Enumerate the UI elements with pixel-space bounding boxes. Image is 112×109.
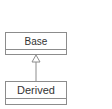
class-name: Derived [6,82,66,99]
class-box-derived[interactable]: Derived [5,81,67,105]
class-box-base[interactable]: Base [5,32,67,55]
class-name: Base [6,33,66,50]
hollow-triangle-arrowhead-icon [32,55,40,62]
